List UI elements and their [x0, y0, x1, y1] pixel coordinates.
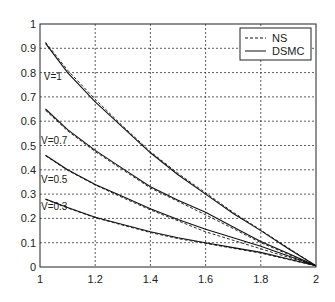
line-chart: 11.21.41.61.82 00.10.20.30.40.50.60.70.8… — [0, 0, 335, 302]
x-tick-label: 1.4 — [143, 273, 158, 285]
y-tick-label: 0.9 — [21, 42, 36, 54]
x-tick-label: 1.8 — [253, 273, 268, 285]
y-tick-label: 0.4 — [21, 164, 36, 176]
legend-label-dsmc: DSMC — [272, 45, 304, 57]
curve-labels: V=1V=0.7V=0.5V=0.3 — [41, 71, 68, 212]
y-tick-label: 0.8 — [21, 67, 36, 79]
y-tick-label: 0 — [30, 261, 36, 273]
curves — [46, 42, 317, 266]
y-tick-label: 0.3 — [21, 188, 36, 200]
curve-dsmc — [46, 109, 317, 266]
x-tick-label: 2 — [313, 273, 319, 285]
x-tick-label: 1 — [37, 273, 43, 285]
y-tick-label: 0.7 — [21, 91, 36, 103]
x-axis-ticks: 11.21.41.61.82 — [37, 273, 319, 285]
x-tick-label: 1.2 — [88, 273, 103, 285]
y-axis-ticks: 00.10.20.30.40.50.60.70.80.91 — [21, 18, 36, 273]
legend-label-ns: NS — [272, 32, 287, 44]
curve-label: V=0.5 — [41, 174, 68, 185]
curve-dsmc — [46, 43, 317, 265]
x-tick-label: 1.6 — [198, 273, 213, 285]
curve-label: V=0.7 — [41, 135, 68, 146]
curve-label: V=0.3 — [41, 201, 68, 212]
curve-ns — [46, 42, 317, 266]
y-tick-label: 0.1 — [21, 237, 36, 249]
y-tick-label: 0.5 — [21, 140, 36, 152]
y-tick-label: 0.2 — [21, 212, 36, 224]
legend: NSDSMC — [240, 28, 311, 60]
curve-dsmc — [46, 199, 317, 266]
curve-label: V=1 — [44, 71, 63, 82]
y-tick-label: 0.6 — [21, 115, 36, 127]
y-tick-label: 1 — [30, 18, 36, 30]
